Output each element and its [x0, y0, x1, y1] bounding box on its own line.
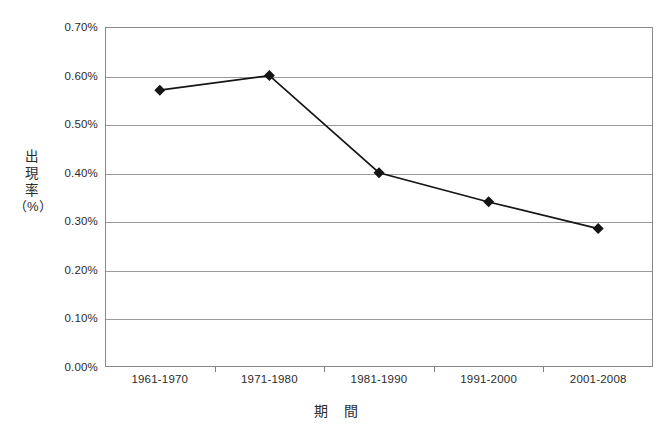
y-axis-tick-label: 0.30%	[64, 215, 98, 227]
x-axis-tick-label: 1991-2000	[460, 373, 517, 385]
gridline	[106, 271, 652, 272]
chart-figure: 出 現 率 （%） 0.70%0.60%0.50%0.40%0.30%0.20%…	[0, 0, 672, 446]
x-axis-tick-label: 1971-1980	[241, 373, 298, 385]
x-axis-tick-label: 2001-2008	[570, 373, 627, 385]
y-axis-title-unit: （%）	[14, 199, 48, 215]
y-axis-title-char-2: 現	[14, 165, 48, 182]
y-axis-tick-label: 0.70%	[64, 21, 98, 33]
x-axis-tick-mark	[215, 367, 216, 372]
y-axis-tick-label: 0.20%	[64, 264, 98, 276]
gridline	[106, 174, 652, 175]
gridline	[106, 319, 652, 320]
y-axis-tick-label: 0.10%	[64, 312, 98, 324]
x-axis-tick-label: 1981-1990	[351, 373, 408, 385]
x-axis-tick-labels: 1961-19701971-19801981-19901991-20002001…	[0, 373, 672, 393]
gridline	[106, 125, 652, 126]
y-axis-title: 出 現 率 （%）	[14, 148, 48, 215]
y-axis-tick-label: 0.60%	[64, 70, 98, 82]
x-axis-title: 期 間	[0, 400, 672, 420]
x-axis-tick-mark	[434, 367, 435, 372]
x-axis-tick-mark	[324, 367, 325, 372]
x-axis-tick-label: 1961-1970	[131, 373, 188, 385]
gridline	[106, 222, 652, 223]
y-axis-tick-label: 0.50%	[64, 118, 98, 130]
x-axis-tick-mark	[543, 367, 544, 372]
y-axis-tick-labels: 0.70%0.60%0.50%0.40%0.30%0.20%0.10%0.00%	[48, 27, 98, 367]
plot-area	[105, 27, 653, 367]
y-axis-tick-label: 0.00%	[64, 361, 98, 373]
gridline	[106, 77, 652, 78]
y-axis-tick-label: 0.40%	[64, 167, 98, 179]
y-axis-title-char-1: 出	[14, 148, 48, 165]
y-axis-title-char-3: 率	[14, 182, 48, 199]
